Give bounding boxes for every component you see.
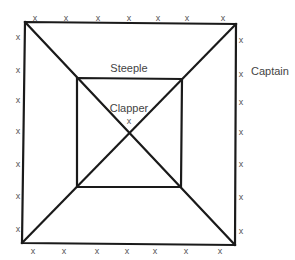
position-mark-top-5: x bbox=[156, 13, 161, 23]
captain-label: Captain bbox=[251, 65, 289, 77]
position-mark-top-7: x bbox=[221, 13, 226, 23]
position-mark-bottom-6: x bbox=[184, 246, 189, 256]
position-mark-bottom-5: x bbox=[153, 246, 158, 256]
position-mark-right-2: x bbox=[239, 69, 244, 79]
position-mark-left-4: x bbox=[16, 126, 21, 136]
position-mark-bottom-1: x bbox=[31, 246, 36, 256]
position-mark-left-1: x bbox=[16, 32, 21, 42]
position-mark-top-1: x bbox=[33, 13, 38, 23]
clapper-mark: x bbox=[127, 116, 132, 126]
position-mark-top-2: x bbox=[64, 13, 69, 23]
position-mark-top-4: x bbox=[127, 13, 132, 23]
steeple-label: Steeple bbox=[110, 62, 147, 74]
diagonal-tr-bl bbox=[22, 24, 236, 243]
position-mark-right-6: x bbox=[239, 192, 244, 202]
position-mark-left-3: x bbox=[16, 95, 21, 105]
position-mark-right-5: x bbox=[239, 159, 244, 169]
position-mark-right-1: x bbox=[239, 35, 244, 45]
position-mark-left-7: x bbox=[16, 224, 21, 234]
position-mark-right-4: x bbox=[239, 127, 244, 137]
position-mark-top-6: x bbox=[185, 13, 190, 23]
position-mark-bottom-2: x bbox=[62, 246, 67, 256]
position-mark-bottom-4: x bbox=[125, 246, 130, 256]
position-mark-top-3: x bbox=[96, 13, 101, 23]
position-mark-right-3: x bbox=[239, 97, 244, 107]
position-mark-left-2: x bbox=[16, 65, 21, 75]
clapper-label: Clapper bbox=[110, 102, 149, 114]
mission-diagram: Steeple Clapper x Captain xxxxxxxxxxxxxx… bbox=[0, 0, 295, 260]
position-mark-right-7: x bbox=[239, 226, 244, 236]
position-mark-bottom-7: x bbox=[218, 246, 223, 256]
position-mark-left-6: x bbox=[16, 191, 21, 201]
position-mark-bottom-3: x bbox=[95, 246, 100, 256]
position-mark-left-5: x bbox=[16, 159, 21, 169]
